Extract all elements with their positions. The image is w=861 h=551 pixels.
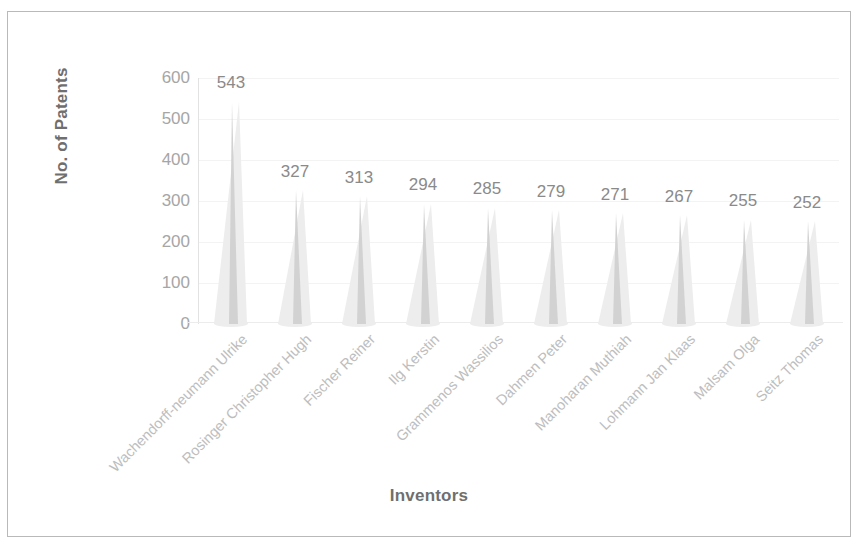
x-tick-label: Seitz Thomas — [752, 331, 826, 405]
bar-value-label: 543 — [217, 73, 245, 93]
cone-shape — [534, 210, 568, 324]
bar: 327 — [263, 78, 327, 324]
y-tick-label: 500 — [142, 109, 190, 129]
y-tick-label: 600 — [142, 68, 190, 88]
y-tick-label: 200 — [142, 232, 190, 252]
cone-shading — [293, 190, 302, 324]
x-tick-label: Grammenos Wassilios — [392, 331, 505, 444]
bar-value-label: 267 — [665, 187, 693, 207]
y-tick-label: 100 — [142, 273, 190, 293]
cone-shape — [342, 196, 376, 324]
y-tick-label: 300 — [142, 191, 190, 211]
bar-series: 543327313294285279271267255252 — [199, 78, 839, 324]
cone-shading — [229, 102, 238, 324]
x-tick-label: Malsam Olga — [690, 331, 762, 403]
x-tick-label: Rosinger Christopher Hugh — [178, 331, 314, 467]
cone-shading — [357, 196, 366, 324]
bar: 543 — [199, 78, 263, 324]
cone-shape — [662, 215, 696, 324]
bar: 267 — [647, 78, 711, 324]
bar-value-label: 294 — [409, 175, 437, 195]
cone-shape — [726, 219, 760, 324]
bar-value-label: 279 — [537, 182, 565, 202]
cone-shape — [470, 207, 504, 324]
cone-shape — [406, 203, 440, 324]
cone-shape — [278, 190, 312, 324]
cone-shading — [677, 215, 686, 324]
cone-shape — [598, 213, 632, 324]
y-axis-tick-labels: 0100200300400500600 — [142, 72, 190, 324]
plot-area: No. of Patents 0100200300400500600 54332… — [8, 12, 850, 536]
y-tick-label: 0 — [142, 314, 190, 334]
cone-shape — [790, 221, 824, 324]
cone-shading — [805, 221, 814, 324]
bar: 285 — [455, 78, 519, 324]
cone-shading — [485, 208, 494, 324]
cone-shading — [741, 220, 750, 324]
chart-frame: No. of Patents 0100200300400500600 54332… — [7, 11, 851, 537]
bar: 252 — [775, 78, 839, 324]
cone-shape — [214, 101, 248, 324]
y-tick-label: 400 — [142, 150, 190, 170]
bar-value-label: 327 — [281, 162, 309, 182]
y-axis-title: No. of Patents — [52, 26, 72, 226]
bar: 271 — [583, 78, 647, 324]
cone-shading — [613, 213, 622, 324]
x-tick-label: Ilg Kerstin — [385, 331, 442, 388]
chart-page: No. of Patents 0100200300400500600 54332… — [0, 0, 861, 551]
bar-value-label: 285 — [473, 179, 501, 199]
bar: 313 — [327, 78, 391, 324]
bar: 255 — [711, 78, 775, 324]
bar-value-label: 255 — [729, 191, 757, 211]
x-tick-label: Wachendorff-neumann Ulrike — [106, 331, 250, 475]
bar-value-label: 271 — [601, 185, 629, 205]
x-axis-title: Inventors — [8, 486, 850, 506]
bar: 294 — [391, 78, 455, 324]
cone-shading — [549, 210, 558, 324]
bar: 279 — [519, 78, 583, 324]
cone-shading — [421, 204, 430, 324]
bar-value-label: 252 — [793, 193, 821, 213]
x-axis-tick-labels: Wachendorff-neumann UlrikeRosinger Chris… — [199, 325, 839, 465]
bar-value-label: 313 — [345, 168, 373, 188]
